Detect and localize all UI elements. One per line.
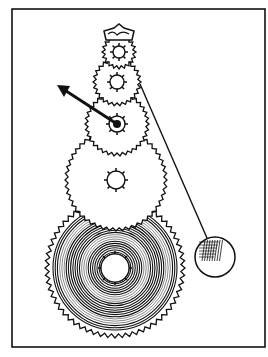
crown-ornament bbox=[104, 24, 134, 40]
gear-train bbox=[45, 24, 235, 338]
clock-mechanism-illustration bbox=[0, 0, 268, 357]
